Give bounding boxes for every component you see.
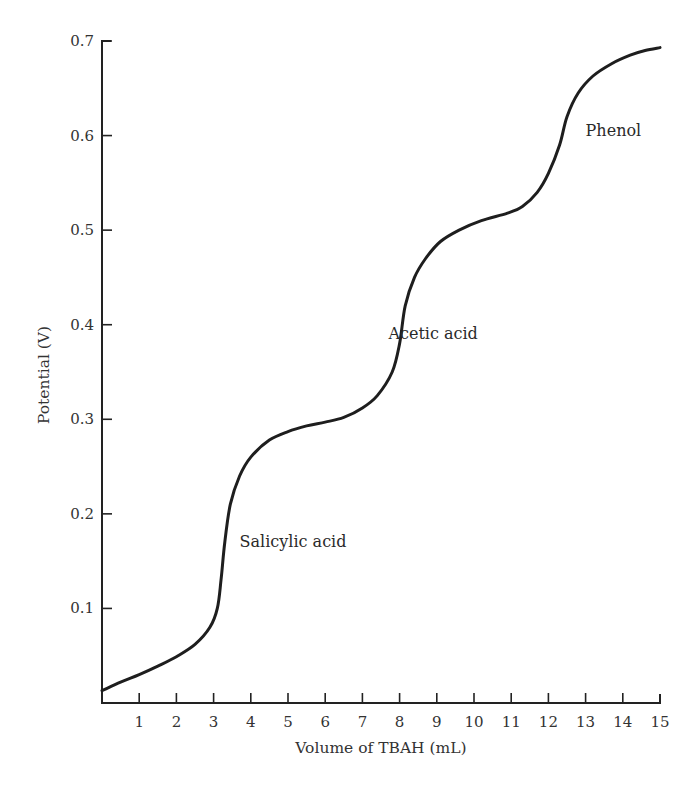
y-tick-label: 0.7 — [70, 32, 94, 50]
titration-chart: 0.10.20.30.40.50.60.7 123456789101112131… — [0, 0, 699, 787]
x-axis-ticks: 123456789101112131415 — [134, 693, 669, 731]
annotation-salicylic-acid: Salicylic acid — [240, 532, 347, 551]
x-tick-label: 11 — [502, 713, 521, 731]
x-axis-title: Volume of TBAH (mL) — [294, 739, 466, 757]
x-tick-label: 1 — [134, 713, 144, 731]
x-tick-label: 6 — [320, 713, 330, 731]
x-tick-label: 4 — [246, 713, 256, 731]
y-tick-label: 0.2 — [70, 505, 94, 523]
y-tick-label: 0.4 — [70, 316, 94, 334]
y-axis-ticks: 0.10.20.30.40.50.60.7 — [70, 32, 112, 617]
titration-curve — [102, 48, 660, 691]
x-tick-label: 3 — [209, 713, 219, 731]
chart-axes — [102, 41, 660, 703]
y-tick-label: 0.5 — [70, 221, 94, 239]
x-tick-label: 7 — [358, 713, 368, 731]
x-tick-label: 15 — [650, 713, 669, 731]
y-tick-label: 0.3 — [70, 410, 94, 428]
annotation-phenol: Phenol — [586, 121, 642, 140]
y-axis-title: Potential (V) — [35, 326, 53, 424]
annotation-acetic-acid: Acetic acid — [387, 324, 477, 343]
x-tick-label: 9 — [432, 713, 442, 731]
y-tick-label: 0.1 — [70, 599, 94, 617]
y-tick-label: 0.6 — [70, 127, 94, 145]
x-tick-label: 10 — [464, 713, 483, 731]
x-tick-label: 13 — [576, 713, 595, 731]
x-tick-label: 8 — [395, 713, 405, 731]
x-tick-label: 5 — [283, 713, 293, 731]
x-tick-label: 2 — [172, 713, 182, 731]
x-tick-label: 12 — [539, 713, 558, 731]
x-tick-label: 14 — [613, 713, 632, 731]
